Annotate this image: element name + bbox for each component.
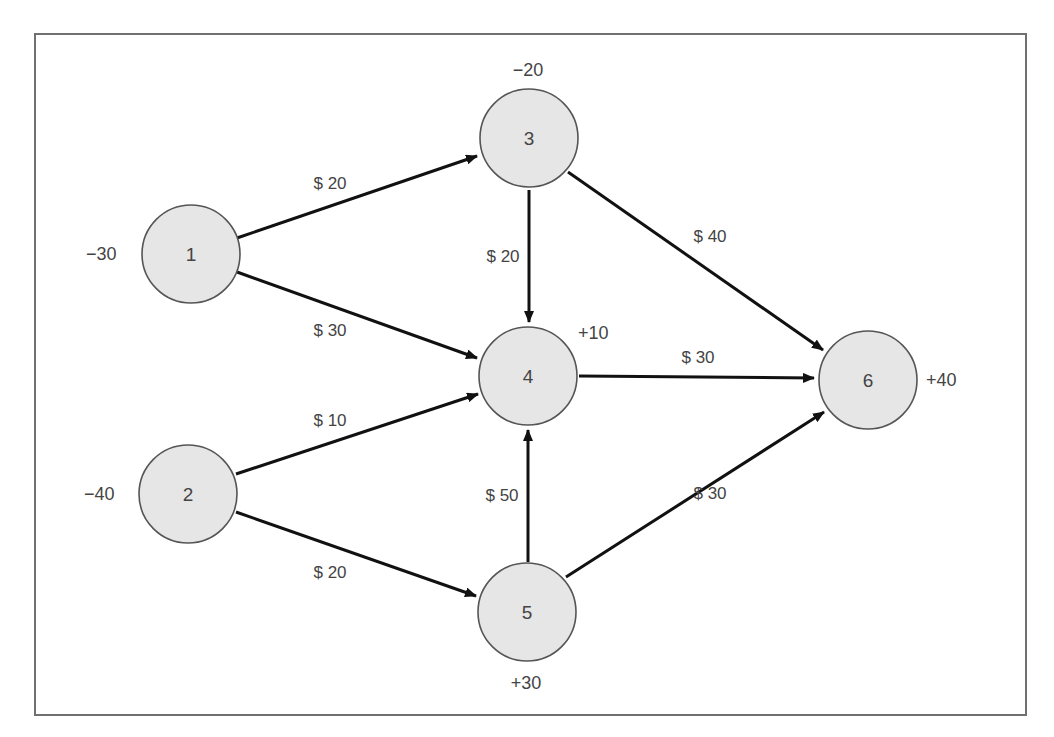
arrow-edge-2-4 — [236, 394, 478, 474]
node-supply-label: −30 — [86, 244, 117, 264]
edge-cost-label: $ 30 — [681, 348, 714, 367]
edge-cost-label: $ 10 — [313, 411, 346, 430]
node-supply-label: −40 — [84, 484, 115, 504]
arrow-edge-4-6 — [579, 376, 814, 378]
edge-cost-label: $ 30 — [693, 484, 726, 503]
node-2: 2−40 — [84, 445, 237, 543]
edge-cost-label: $ 20 — [313, 174, 346, 193]
node-5: 5+30 — [478, 563, 576, 693]
arrow-edge-1-3 — [237, 156, 477, 238]
node-1: 1−30 — [86, 205, 240, 303]
node-supply-label: +30 — [511, 673, 542, 693]
edge-cost-label: $ 40 — [693, 227, 726, 246]
node-supply-label: −20 — [513, 60, 544, 80]
edge-cost-label: $ 20 — [313, 563, 346, 582]
nodes-layer: 1−302−403−204+105+306+40 — [84, 60, 957, 693]
node-label: 3 — [524, 128, 535, 149]
arrow-edge-1-4 — [237, 272, 477, 358]
edge-cost-label: $ 30 — [313, 321, 346, 340]
node-label: 5 — [522, 602, 533, 623]
node-4: 4+10 — [479, 323, 609, 425]
node-supply-label: +40 — [926, 370, 957, 390]
node-6: 6+40 — [819, 331, 957, 429]
node-supply-label: +10 — [578, 323, 609, 343]
node-3: 3−20 — [480, 60, 578, 187]
edge-cost-label: $ 20 — [486, 247, 519, 266]
edge-cost-label: $ 50 — [485, 486, 518, 505]
arrow-edge-2-5 — [236, 512, 476, 596]
node-label: 4 — [523, 366, 534, 387]
node-label: 1 — [186, 244, 197, 265]
node-label: 6 — [863, 370, 874, 391]
node-label: 2 — [183, 484, 194, 505]
network-diagram: $ 20$ 30$ 20$ 40$ 30$ 10$ 20$ 50$ 30 1−3… — [0, 0, 1054, 737]
